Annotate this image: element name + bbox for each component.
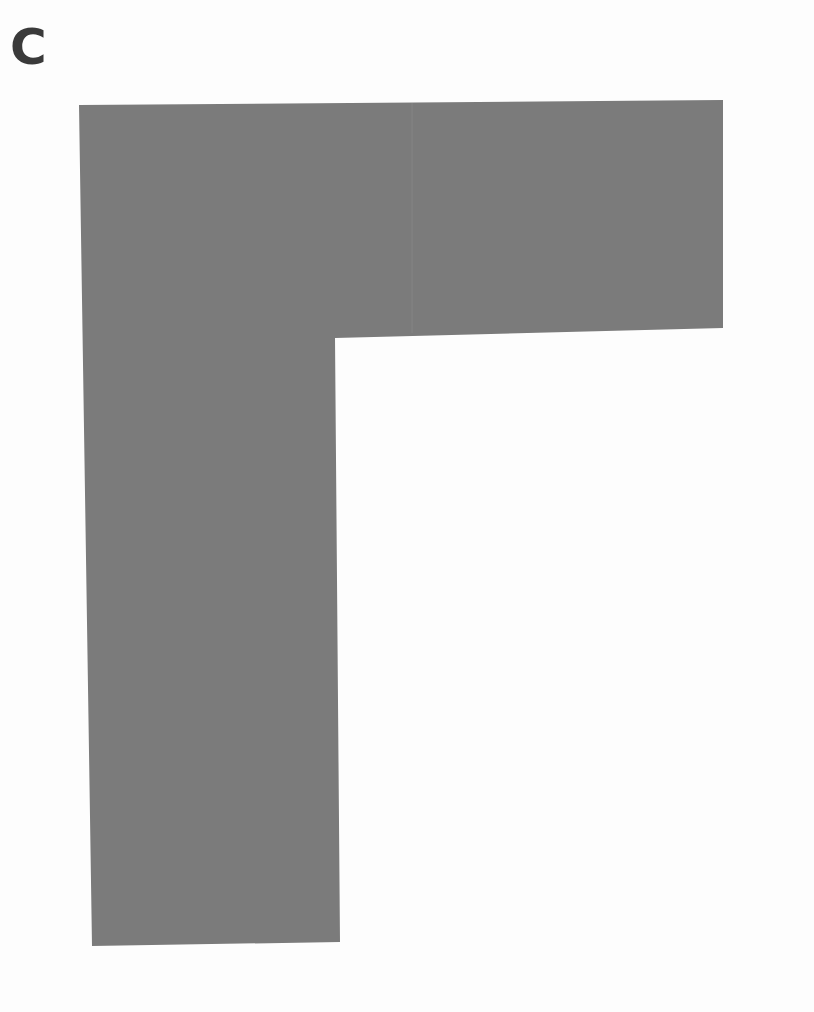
l-shaped-gray-region (0, 0, 814, 1012)
l-shape-polygon (79, 100, 723, 946)
